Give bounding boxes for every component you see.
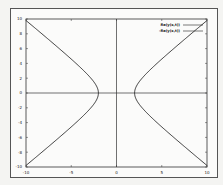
legend-label-1: Re(y(x,t)) bbox=[160, 23, 180, 27]
y-tick-label: 10 bbox=[17, 16, 23, 21]
x-tick-label: -10 bbox=[23, 170, 30, 175]
x-tick-label: 0 bbox=[115, 170, 118, 175]
y-tick-label: 0 bbox=[19, 90, 22, 95]
x-tick-label: 10 bbox=[204, 170, 210, 175]
y-tick-label: -8 bbox=[18, 150, 22, 155]
y-tick-label: 4 bbox=[19, 61, 22, 66]
legend: Re(y(x,t)) -Re(y(x,t)) bbox=[159, 23, 203, 33]
y-tick-label: 6 bbox=[19, 46, 22, 51]
y-tick-label: -4 bbox=[18, 120, 22, 125]
axis-ticks: -10-505101086420-2-4-6-8-10 bbox=[15, 16, 210, 175]
y-tick-label: -10 bbox=[15, 164, 22, 169]
zero-axes bbox=[26, 19, 207, 167]
y-tick-label: 8 bbox=[19, 31, 22, 36]
y-tick-label: -2 bbox=[18, 105, 22, 110]
x-tick-label: -5 bbox=[69, 170, 73, 175]
x-tick-label: 5 bbox=[160, 170, 163, 175]
hyperbola-chart: -10-505101086420-2-4-6-8-10 Re(y(x,t)) -… bbox=[0, 0, 223, 185]
legend-label-2: -Re(y(x,t)) bbox=[159, 29, 180, 33]
y-tick-label: -6 bbox=[18, 135, 22, 140]
y-tick-label: 2 bbox=[19, 76, 22, 81]
